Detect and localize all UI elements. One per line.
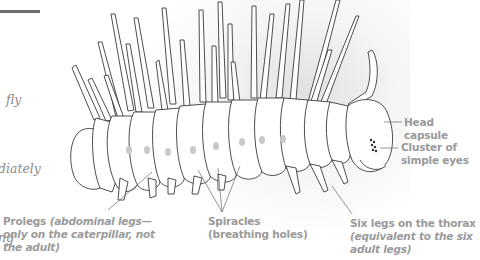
label-thorax-legs: Six legs on the thorax (equivalent to th… (350, 217, 476, 256)
caterpillar-diagram: fly diately ing (0, 0, 480, 260)
label-spiracles: Spiracles (breathing holes) (208, 215, 308, 241)
label-head-capsule: Head capsule (404, 116, 480, 142)
label-prolegs: Prolegs (abdominal legs— only on the cat… (3, 215, 155, 254)
head-capsule-shape (346, 100, 393, 172)
proleg-2 (148, 178, 156, 198)
thoracic-leg-2 (310, 164, 328, 192)
thoracic-leg-3 (332, 160, 348, 184)
proleg-4 (192, 176, 202, 194)
label-simple-eyes: Cluster of simple eyes (401, 141, 469, 167)
leader-thorax-legs (332, 186, 352, 214)
proleg-3 (168, 178, 176, 194)
